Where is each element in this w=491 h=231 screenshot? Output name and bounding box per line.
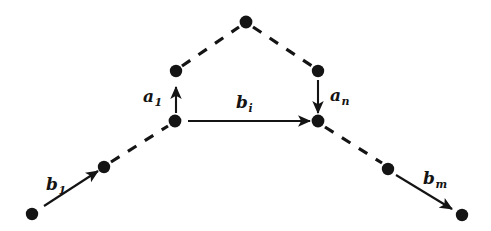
node-upper-left (170, 65, 182, 77)
node-mid-left (169, 115, 182, 128)
edge-label-bi-sub: i (248, 102, 252, 115)
path-diagram-svg (0, 0, 491, 231)
edge-label-b1: b1 (46, 176, 66, 193)
diagram-canvas: b1 bi bm a1 an (0, 0, 491, 231)
edge-dash-ur (253, 27, 312, 66)
edge-dash-ul (182, 27, 239, 66)
edge-label-an: an (330, 87, 349, 104)
edge-dash-lr (325, 127, 382, 163)
edge-label-a1-base: a (143, 86, 154, 106)
edge-label-b1-sub: 1 (58, 184, 66, 197)
edge-label-bm-base: b (423, 168, 435, 188)
edge-label-bi: bi (236, 94, 252, 111)
node-upper-right (312, 65, 324, 77)
edge-label-b1-base: b (46, 174, 58, 194)
edge-label-bm-sub: m (435, 178, 447, 191)
edge-label-a1: a1 (143, 88, 162, 105)
edge-label-a1-sub: 1 (155, 96, 163, 109)
node-mid-right (312, 115, 325, 128)
edge-label-an-sub: n (342, 95, 350, 108)
edges-layer (44, 27, 452, 209)
node-lower-right (382, 163, 394, 175)
node-lower-left (98, 161, 110, 173)
node-bottom-left (26, 208, 38, 220)
edge-label-bm: bm (423, 170, 447, 187)
edge-dash-ll (111, 126, 168, 162)
nodes-layer (26, 16, 468, 222)
node-bottom-right (456, 209, 468, 221)
node-apex (240, 16, 253, 29)
edge-label-bi-base: b (236, 92, 248, 112)
edge-label-an-base: a (330, 85, 341, 105)
